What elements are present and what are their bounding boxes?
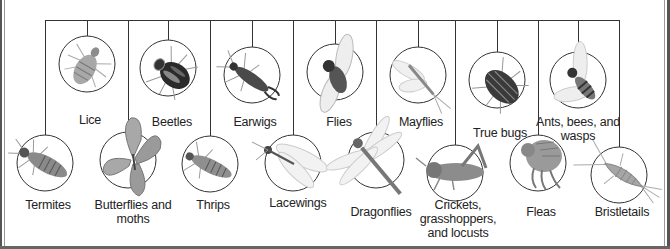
termite-icon [4,132,74,189]
label-earwigs: Earwigs [233,115,276,129]
cricket-icon [416,146,486,190]
label-butterflies-moths: Butterflies and moths [95,198,172,226]
label-flies: Flies [326,115,351,129]
lacewing-icon [252,139,331,192]
label-line: Crickets, [420,198,497,212]
butterfly-icon [103,118,161,196]
thrips-icon [179,140,238,190]
label-lice: Lice [79,113,101,127]
label-fleas: Fleas [526,205,556,219]
label-line: Ants, bees, and [536,115,620,129]
label-dragonflies: Dragonflies [350,205,411,219]
silverfish-icon [573,134,668,212]
label-line: Butterflies and [95,198,172,212]
label-lacewings: Lacewings [269,196,326,210]
wasp-icon [532,35,618,120]
flea-icon [521,140,562,190]
label-thrips: Thrips [196,198,230,212]
label-line: grasshoppers, [420,212,497,226]
diagram-frame: Lice Beetles Earwigs Flies Mayflies True… [0,0,670,249]
label-crickets-grasshoppers-locusts: Crickets, grasshoppers, and locusts [420,198,497,240]
label-line: wasps [536,129,620,143]
label-mayflies: Mayflies [399,115,443,129]
label-beetles: Beetles [152,115,192,129]
label-termites: Termites [25,198,71,212]
beetle-icon [141,42,201,104]
label-line: and locusts [420,226,497,240]
label-ants-bees-wasps: Ants, bees, and wasps [536,115,620,143]
stink-bug-icon [471,56,533,118]
earwig-icon [212,44,288,112]
label-bristletails: Bristletails [595,205,650,219]
label-line: moths [95,212,172,226]
label-true-bugs: True bugs [473,126,527,140]
